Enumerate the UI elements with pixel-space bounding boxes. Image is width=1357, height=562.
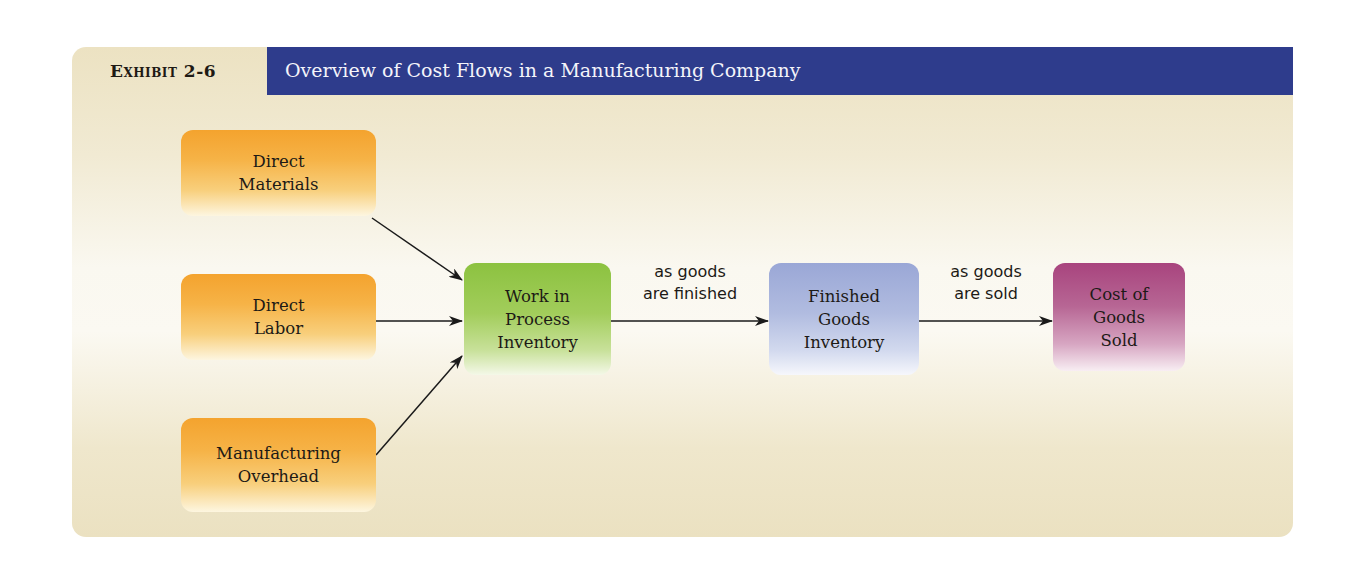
box-direct-labor: Direct Labor	[181, 274, 376, 360]
box-finished-goods: Finished Goods Inventory	[769, 263, 919, 375]
box-work-in-process: Work in Process Inventory	[464, 263, 611, 375]
box-direct-materials: Direct Materials	[181, 130, 376, 216]
exhibit-title: Overview of Cost Flows in a Manufacturin…	[285, 47, 801, 95]
box-label: Finished Goods Inventory	[804, 285, 885, 354]
box-label: Direct Materials	[239, 150, 319, 196]
flow-label-sold: as goods are sold	[921, 261, 1051, 305]
box-label: Cost of Goods Sold	[1090, 283, 1149, 352]
exhibit-number: Exhibit 2-6	[110, 58, 216, 84]
box-label: Direct Labor	[252, 294, 304, 340]
title-banner: Overview of Cost Flows in a Manufacturin…	[267, 47, 1293, 95]
box-manufacturing-overhead: Manufacturing Overhead	[181, 418, 376, 512]
box-label: Manufacturing Overhead	[216, 442, 341, 488]
box-label: Work in Process Inventory	[497, 285, 578, 354]
box-cost-of-goods-sold: Cost of Goods Sold	[1053, 263, 1185, 371]
flow-label-finished: as goods are finished	[614, 261, 766, 305]
